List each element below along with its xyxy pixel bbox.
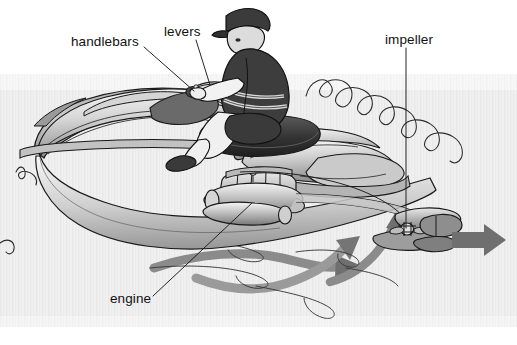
watercraft-diagram: handlebars levers impeller engine bbox=[0, 0, 517, 345]
label-impeller: impeller bbox=[385, 33, 433, 47]
label-levers: levers bbox=[164, 25, 201, 39]
label-engine: engine bbox=[110, 292, 151, 306]
label-handlebars: handlebars bbox=[71, 35, 139, 49]
diagram-illustration bbox=[0, 0, 517, 345]
